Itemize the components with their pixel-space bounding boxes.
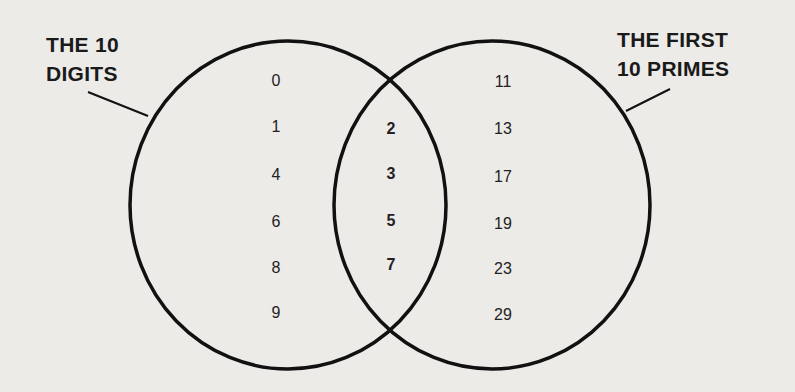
digit-item: 0 <box>272 72 281 90</box>
primes-label-line2: 10 PRIMES <box>617 54 729 83</box>
prime-item: 17 <box>494 168 512 186</box>
digits-label-line1: THE 10 <box>46 30 119 59</box>
primes-leader-line <box>626 89 670 111</box>
prime-item: 19 <box>494 215 512 233</box>
digits-circle <box>130 41 446 369</box>
prime-item: 23 <box>494 260 512 278</box>
intersection-item: 7 <box>387 256 396 274</box>
prime-item: 29 <box>494 306 512 324</box>
digit-item: 8 <box>272 259 281 277</box>
prime-item: 13 <box>494 120 512 138</box>
primes-circle <box>334 41 650 369</box>
digits-leader-line <box>88 92 148 116</box>
digits-set-label: THE 10 DIGITS <box>46 30 119 88</box>
digit-item: 9 <box>272 304 281 322</box>
digit-item: 4 <box>272 166 281 184</box>
digit-item: 6 <box>272 213 281 231</box>
primes-label-line1: THE FIRST <box>617 25 729 54</box>
intersection-item: 5 <box>387 212 396 230</box>
intersection-item: 3 <box>387 165 396 183</box>
intersection-item: 2 <box>387 120 396 138</box>
prime-item: 11 <box>495 73 512 91</box>
digits-label-line2: DIGITS <box>46 59 119 88</box>
venn-diagram: THE 10 DIGITS THE FIRST 10 PRIMES 0 1 4 … <box>0 0 795 392</box>
digit-item: 1 <box>272 118 281 136</box>
primes-set-label: THE FIRST 10 PRIMES <box>617 25 729 83</box>
